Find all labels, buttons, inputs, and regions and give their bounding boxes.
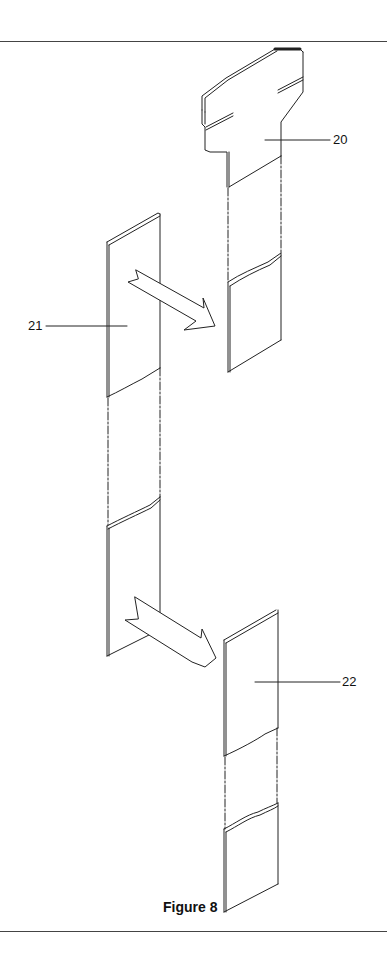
figure-drawing bbox=[0, 0, 387, 960]
reference-label-20: 20 bbox=[333, 133, 347, 146]
arrow-upper bbox=[128, 270, 215, 330]
part-20 bbox=[202, 49, 303, 372]
reference-label-21: 21 bbox=[28, 319, 42, 332]
figure-caption: Figure 8 bbox=[163, 900, 217, 914]
arrow-lower bbox=[125, 597, 216, 667]
part-22 bbox=[224, 610, 278, 912]
reference-label-22: 22 bbox=[342, 675, 356, 688]
